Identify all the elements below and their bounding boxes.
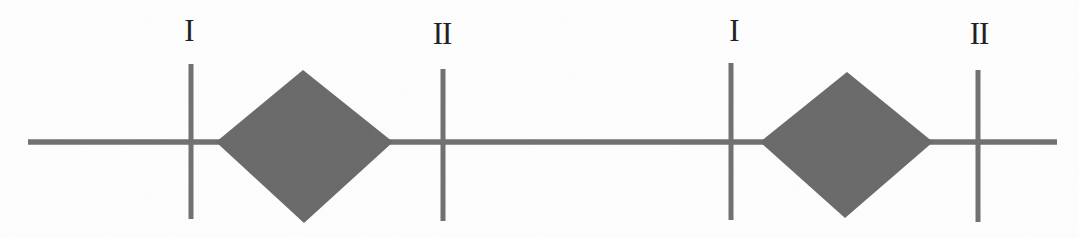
figure-canvas: I II I II — [0, 0, 1079, 238]
scan-noise-overlay — [0, 0, 1079, 238]
optical-diagram: I II I II — [0, 0, 1079, 238]
